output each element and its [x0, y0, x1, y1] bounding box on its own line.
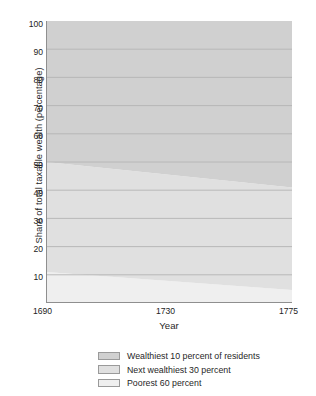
legend-label: Next wealthiest 30 percent — [127, 365, 231, 375]
legend-item-wealthiest-10: Wealthiest 10 percent of residents — [98, 350, 308, 362]
legend-item-poorest-60: Poorest 60 percent — [98, 377, 308, 389]
legend-label: Wealthiest 10 percent of residents — [127, 351, 260, 361]
chart-figure: Share of total taxable wealth (percentag… — [0, 0, 316, 396]
x-axis-tick-labels: 1690 1730 1775 — [0, 0, 316, 396]
legend-item-next-wealthiest-30: Next wealthiest 30 percent — [98, 364, 308, 376]
x-axis-title: Year — [46, 320, 292, 331]
x-tick-label: 1775 — [279, 307, 298, 316]
legend-swatch-icon — [98, 352, 120, 361]
legend-swatch-icon — [98, 365, 120, 374]
chart-legend: Wealthiest 10 percent of residents Next … — [98, 350, 308, 391]
legend-label: Poorest 60 percent — [127, 378, 201, 388]
x-tick-label: 1690 — [33, 307, 52, 316]
legend-swatch-icon — [98, 379, 120, 388]
x-tick-label: 1730 — [156, 307, 175, 316]
